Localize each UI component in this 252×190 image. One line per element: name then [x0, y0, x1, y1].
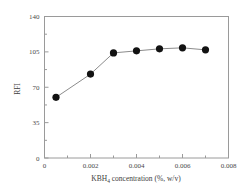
data-point	[87, 71, 94, 78]
chart-figure: 03570105140 00.0020.0040.0060.008 KBH4 c…	[0, 0, 252, 190]
y-tick-label: 35	[33, 119, 41, 127]
y-tick-label: 70	[33, 84, 41, 92]
y-axis-title: RFI	[13, 83, 22, 95]
data-point	[133, 47, 140, 54]
y-tick-label: 105	[29, 48, 40, 56]
x-tick-label: 0.002	[83, 162, 99, 170]
data-point	[52, 94, 59, 101]
x-tick-label: 0.008	[221, 162, 237, 170]
y-axis-tick-labels: 03570105140	[29, 13, 40, 163]
x-axis-tick-labels: 00.0020.0040.0060.008	[43, 162, 237, 170]
y-tick-label: 140	[29, 13, 40, 21]
plot-frame	[45, 17, 229, 159]
x-axis-title: KBH4 concentration (%, w/v)	[91, 174, 181, 184]
y-tick-label: 0	[36, 155, 40, 163]
y-axis-major-ticks	[45, 17, 49, 159]
data-point	[202, 46, 209, 53]
x-tick-label: 0.004	[129, 162, 145, 170]
data-point	[156, 45, 163, 52]
series-line-rfi	[56, 48, 206, 98]
data-point	[179, 44, 186, 51]
x-tick-label: 0.006	[175, 162, 191, 170]
data-point	[110, 49, 117, 56]
chart-canvas: 03570105140 00.0020.0040.0060.008 KBH4 c…	[0, 0, 252, 190]
x-axis-major-ticks	[45, 154, 229, 158]
series-points-rfi	[52, 44, 209, 101]
x-tick-label: 0	[43, 162, 47, 170]
